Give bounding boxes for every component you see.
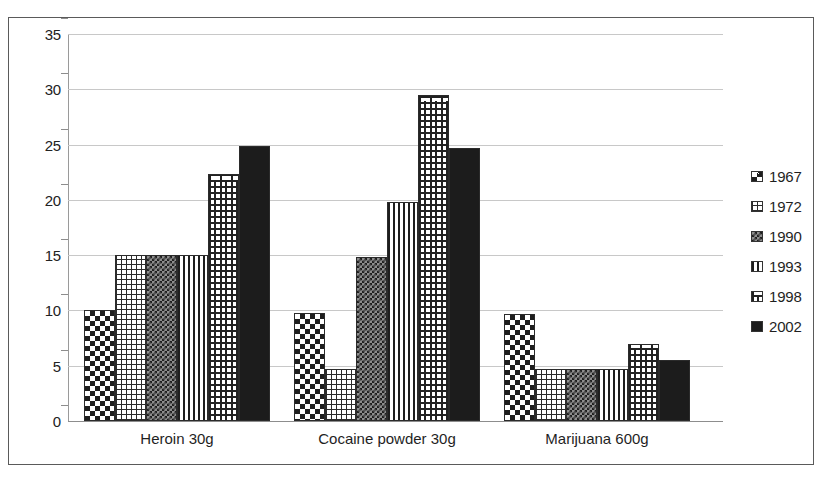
y-tick-label-25: 25 [21, 136, 61, 153]
legend-label-1993: 1993 [769, 258, 802, 275]
y-tick-mark-15 [61, 239, 68, 240]
gridline-0 [68, 421, 723, 422]
y-tick-label-0: 0 [21, 413, 61, 430]
legend-item-1998[interactable]: 1998 [751, 281, 831, 311]
legend-swatch-icon-1993 [751, 261, 763, 272]
bar-pattern-brick [419, 96, 448, 420]
legend-swatch-icon-2002 [751, 321, 763, 332]
y-tick-label-5: 5 [21, 357, 61, 374]
bar-1972-2 [535, 369, 566, 421]
plot-area [68, 34, 723, 421]
y-tick-mark-0 [61, 405, 68, 406]
gridline-25 [68, 145, 723, 146]
legend-swatch-icon-1972 [751, 201, 763, 212]
y-tick-label-15: 15 [21, 247, 61, 264]
bar-1972-1 [325, 369, 356, 421]
bar-1990-2 [566, 369, 597, 421]
legend-label-1990: 1990 [769, 228, 802, 245]
y-tick-mark-5 [61, 350, 68, 351]
y-tick-mark-10 [61, 294, 68, 295]
bar-1967-1 [294, 313, 325, 421]
category-label-0: Heroin 30g [84, 430, 270, 447]
legend-label-1967: 1967 [769, 168, 802, 185]
bar-1990-1 [356, 257, 387, 421]
plot-wrapper: 35302520151050 Heroin 30gCocaine powder … [9, 18, 813, 464]
bar-1993-2 [597, 369, 628, 421]
gridline-30 [68, 89, 723, 90]
bar-pattern-brick [209, 175, 238, 420]
y-tick-mark-30 [61, 73, 68, 74]
legend-item-1990[interactable]: 1990 [751, 221, 831, 251]
bar-2002-1 [449, 148, 480, 421]
y-axis-tick-labels: 35302520151050 [17, 34, 61, 421]
legend-label-1972: 1972 [769, 198, 802, 215]
legend-label-2002: 2002 [769, 318, 802, 335]
y-tick-label-35: 35 [21, 26, 61, 43]
legend-item-1972[interactable]: 1972 [751, 191, 831, 221]
gridline-20 [68, 200, 723, 201]
chart-frame: 35302520151050 Heroin 30gCocaine powder … [8, 17, 814, 465]
y-tick-mark-20 [61, 184, 68, 185]
bar-1993-0 [177, 255, 208, 421]
y-tick-label-10: 10 [21, 302, 61, 319]
bar-1993-1 [387, 202, 418, 421]
bar-1967-2 [504, 314, 535, 421]
legend-swatch-icon-1967 [751, 171, 763, 182]
bar-1972-0 [115, 255, 146, 421]
legend-item-2002[interactable]: 2002 [751, 311, 831, 341]
legend-item-1993[interactable]: 1993 [751, 251, 831, 281]
bar-1990-0 [146, 255, 177, 421]
legend: 196719721990199319982002 [751, 161, 831, 341]
bar-1998-1 [418, 95, 449, 421]
category-label-2: Marijuana 600g [504, 430, 690, 447]
y-tick-label-20: 20 [21, 191, 61, 208]
legend-swatch-icon-1990 [751, 231, 763, 242]
legend-label-1998: 1998 [769, 288, 802, 305]
bar-2002-0 [239, 146, 270, 421]
bar-1998-0 [208, 174, 239, 421]
y-tick-label-30: 30 [21, 81, 61, 98]
legend-item-1967[interactable]: 1967 [751, 161, 831, 191]
y-tick-mark-35 [61, 18, 68, 19]
bar-1967-0 [84, 310, 115, 421]
legend-pattern-brick [752, 292, 762, 301]
y-tick-mark-25 [61, 129, 68, 130]
bar-pattern-brick [629, 345, 658, 420]
category-label-1: Cocaine powder 30g [294, 430, 480, 447]
legend-swatch-icon-1998 [751, 291, 763, 302]
bar-1998-2 [628, 344, 659, 421]
bar-2002-2 [659, 360, 690, 421]
gridline-35 [68, 34, 723, 35]
